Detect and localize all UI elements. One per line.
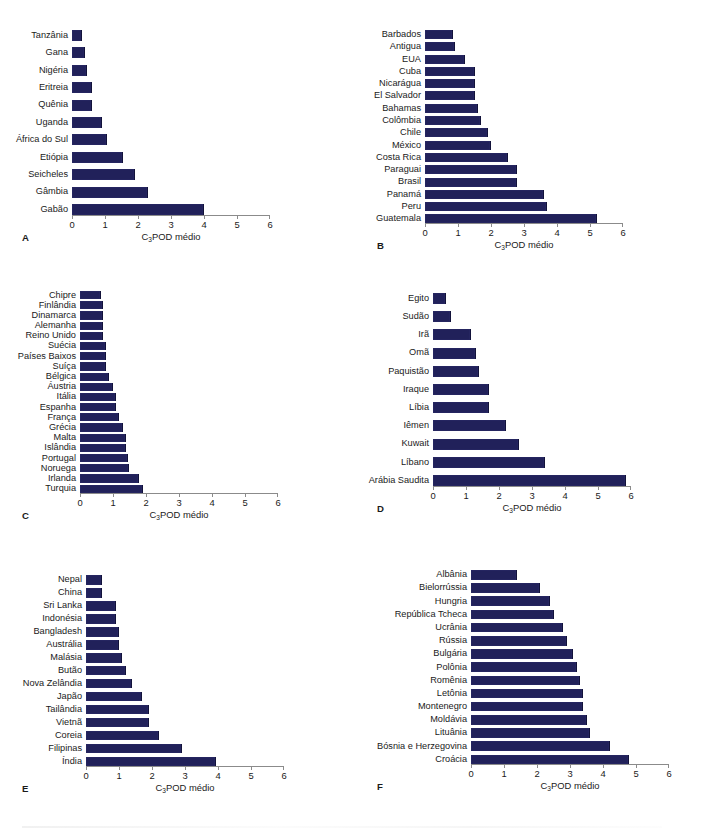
bar	[433, 420, 506, 431]
bar-row: Nova Zelândia	[0, 679, 354, 689]
bar-track	[80, 291, 278, 299]
bar	[72, 100, 92, 111]
bar	[80, 403, 116, 411]
bar-row: El Salvador	[355, 91, 709, 100]
bar	[425, 153, 508, 162]
category-label: Líbano	[355, 458, 433, 467]
bar	[80, 301, 103, 309]
bar	[425, 178, 517, 187]
bar-track	[72, 169, 270, 180]
axis-tick-label: 5	[234, 220, 239, 229]
bar-track	[86, 718, 284, 728]
bar	[80, 393, 116, 401]
bar-track	[471, 689, 669, 699]
category-label: Croácia	[355, 755, 471, 764]
bar	[86, 718, 149, 728]
bar-row: Chile	[355, 128, 709, 137]
bar	[425, 30, 453, 39]
axis-tick-label: 4	[201, 220, 206, 229]
bar-track	[86, 731, 284, 741]
bar-row: Japão	[0, 692, 354, 702]
category-label: Bangladesh	[0, 627, 86, 636]
category-label: Bósnia e Herzegovina	[355, 742, 471, 751]
bar-track	[471, 636, 669, 646]
category-label: Noruega	[0, 464, 80, 473]
category-label: Bahamas	[355, 104, 425, 113]
bar-row: Suécia	[0, 342, 354, 350]
bar-track	[471, 728, 669, 738]
axis-row: 0123456	[355, 764, 709, 780]
bar	[433, 293, 446, 304]
bar	[80, 434, 126, 442]
bar-row: Paraguai	[355, 165, 709, 174]
bar-track	[425, 42, 623, 51]
category-label: Kuwait	[355, 439, 433, 448]
category-label: Gabão	[0, 205, 72, 214]
category-label: Grécia	[0, 423, 80, 432]
category-label: Bélgica	[0, 372, 80, 381]
bar-row: Gâmbia	[0, 187, 354, 198]
x-title-suffix: POD médio	[505, 239, 553, 250]
category-label: Quênia	[0, 100, 72, 109]
bar	[86, 692, 142, 702]
bar-track	[80, 413, 278, 421]
bar-track	[433, 439, 631, 450]
bar-track	[425, 104, 623, 113]
x-title-suffix: POD médio	[160, 509, 208, 520]
bar-track	[86, 679, 284, 689]
bar	[471, 702, 583, 712]
category-label: Malta	[0, 433, 80, 442]
bar-row: Finlândia	[0, 301, 354, 309]
category-label: Sudão	[355, 312, 433, 321]
bar	[425, 202, 547, 211]
bar-track	[80, 342, 278, 350]
bar	[80, 311, 103, 319]
category-label: Egito	[355, 294, 433, 303]
scan-artifact	[22, 826, 662, 828]
category-label: Vietnã	[0, 718, 86, 727]
bar	[72, 187, 148, 198]
bar	[72, 117, 102, 128]
bar	[471, 649, 573, 659]
category-label: Ucrânia	[355, 623, 471, 632]
bar-row: Croácia	[355, 755, 709, 765]
bar	[72, 30, 82, 41]
bar	[86, 705, 149, 715]
bar-track	[425, 165, 623, 174]
x-axis-title: C3POD médio	[541, 781, 600, 791]
category-label: Etiópia	[0, 153, 72, 162]
bar-row: Tanzânia	[0, 30, 354, 41]
bar-rows: TanzâniaGanaNigériaEritreiaQuêniaUgandaÁ…	[0, 30, 354, 215]
axis-row: 0123456	[0, 215, 354, 231]
axis-row: 0123456	[355, 223, 709, 239]
bar-track	[86, 627, 284, 637]
x-title-prefix: C	[541, 780, 548, 791]
bar-track	[80, 311, 278, 319]
category-label: Panamá	[355, 190, 425, 199]
bar-row: Turquia	[0, 485, 354, 493]
bar	[86, 679, 132, 689]
bar	[86, 575, 102, 585]
bar-row: Albânia	[355, 570, 709, 580]
bar-row: Itália	[0, 393, 354, 401]
bar-row: Áustria	[0, 383, 354, 391]
bar-track	[80, 444, 278, 452]
category-label: Bulgária	[355, 649, 471, 658]
bar-track	[80, 383, 278, 391]
bar	[72, 169, 135, 180]
category-label: Moldávia	[355, 715, 471, 724]
category-label: Chipre	[0, 291, 80, 300]
bar	[80, 413, 119, 421]
bar-track	[86, 614, 284, 624]
bar	[80, 373, 109, 381]
bar-track	[72, 30, 270, 41]
bar	[72, 204, 204, 215]
x-axis: 0123456	[425, 223, 623, 239]
bar	[72, 47, 85, 58]
bar-track	[433, 384, 631, 395]
axis-tick-label: 1	[455, 228, 460, 237]
bar	[433, 348, 476, 359]
axis-row: 0123456	[0, 493, 354, 509]
category-label: Austrália	[0, 640, 86, 649]
axis-tick-label: 0	[83, 771, 88, 780]
